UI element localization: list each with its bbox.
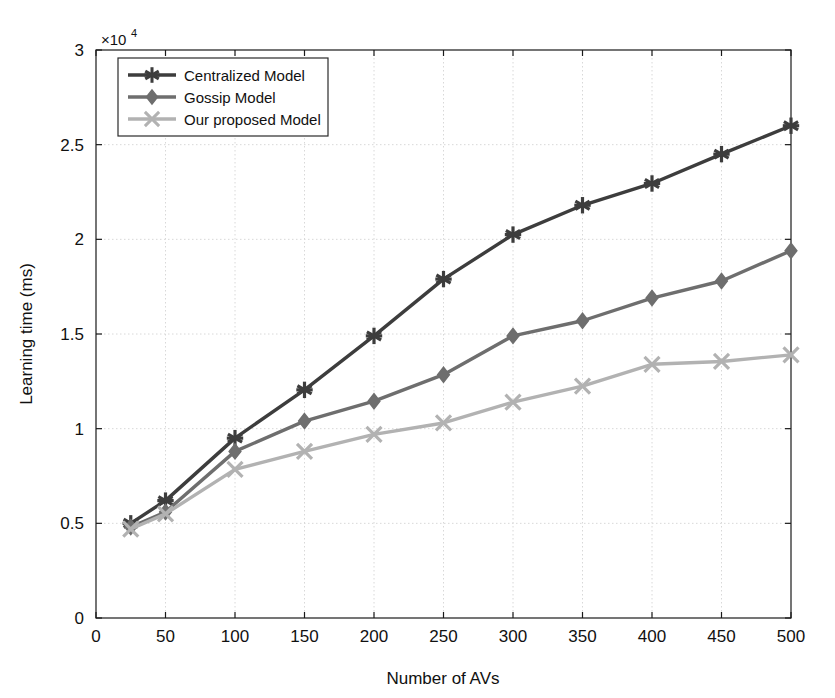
y-axis-label: Learning time (ms): [17, 263, 36, 405]
x-tick-label: 250: [429, 627, 457, 646]
x-tick-label: 50: [156, 627, 175, 646]
series-2: [125, 243, 797, 534]
y-axis-exponent-power: 4: [131, 27, 137, 39]
x-tick-label: 150: [290, 627, 318, 646]
y-tick-label: 0.5: [60, 514, 84, 533]
y-tick-label: 1: [75, 420, 84, 439]
series-1: [123, 118, 800, 532]
x-tick-label: 500: [777, 627, 805, 646]
x-tick-label: 300: [499, 627, 527, 646]
x-tick-label: 400: [638, 627, 666, 646]
marker-diamond: [646, 291, 658, 306]
y-tick-label: 0: [75, 609, 84, 628]
marker-diamond: [438, 367, 450, 382]
legend-label: Gossip Model: [184, 89, 276, 106]
data-series: [123, 118, 800, 537]
y-tick-label: 2.5: [60, 136, 84, 155]
marker-diamond: [299, 414, 311, 429]
x-tick-labels: 050100150200250300350400450500: [91, 627, 805, 646]
y-axis-exponent: ×10: [101, 31, 126, 48]
marker-diamond: [716, 273, 728, 288]
marker-diamond: [507, 328, 519, 343]
x-tick-label: 0: [91, 627, 100, 646]
x-tick-label: 200: [360, 627, 388, 646]
marker-diamond: [368, 394, 380, 409]
x-tick-label: 450: [707, 627, 735, 646]
y-tick-label: 2: [75, 230, 84, 249]
legend-label: Our proposed Model: [184, 111, 321, 128]
legend: Centralized ModelGossip ModelOur propose…: [118, 58, 328, 136]
marker-diamond: [785, 243, 797, 258]
legend-item-3: Our proposed Model: [128, 111, 321, 128]
x-axis-label: Number of AVs: [386, 669, 499, 688]
series-line: [131, 251, 791, 527]
series-3: [123, 347, 798, 536]
line-chart: 050100150200250300350400450500 00.511.52…: [0, 0, 835, 698]
marker-diamond: [577, 313, 589, 328]
chart-figure: 050100150200250300350400450500 00.511.52…: [0, 0, 835, 698]
y-tick-label: 3: [75, 41, 84, 60]
x-tick-label: 100: [221, 627, 249, 646]
legend-label: Centralized Model: [184, 67, 305, 84]
y-tick-labels: 00.511.522.53: [60, 41, 84, 628]
x-tick-label: 350: [568, 627, 596, 646]
y-tick-label: 1.5: [60, 325, 84, 344]
